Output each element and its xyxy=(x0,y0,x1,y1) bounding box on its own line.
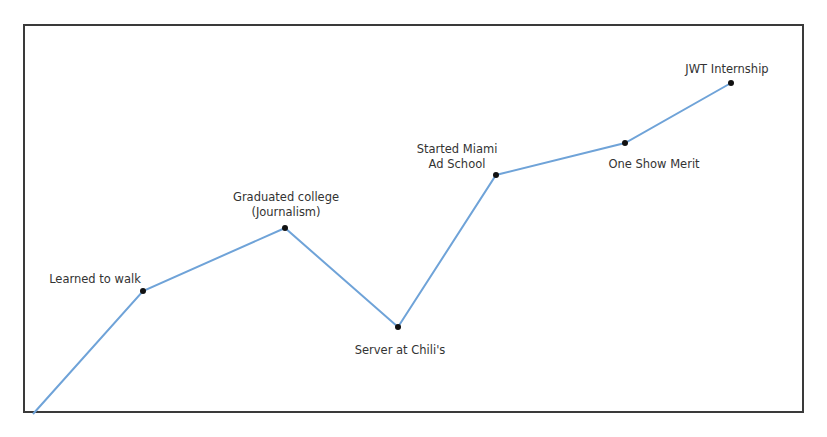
point-chilis xyxy=(395,324,401,330)
point-walk xyxy=(140,288,146,294)
label-graduated-college: Graduated college (Journalism) xyxy=(233,190,339,220)
label-one-show-merit: One Show Merit xyxy=(608,157,699,172)
point-jwt xyxy=(728,80,734,86)
label-miami-ad-school: Started Miami Ad School xyxy=(417,142,498,172)
label-server-chilis: Server at Chili's xyxy=(355,343,446,358)
label-line-2: (Journalism) xyxy=(233,205,339,220)
point-college xyxy=(282,225,288,231)
point-miami xyxy=(493,172,499,178)
career-line xyxy=(33,83,731,414)
label-jwt-internship: JWT Internship xyxy=(685,62,768,77)
point-oneshow xyxy=(622,140,628,146)
label-learned-to-walk: Learned to walk xyxy=(49,272,141,287)
label-line-1: Graduated college xyxy=(233,190,339,205)
label-line-1: Started Miami xyxy=(417,142,498,157)
label-line-2: Ad School xyxy=(417,157,498,172)
